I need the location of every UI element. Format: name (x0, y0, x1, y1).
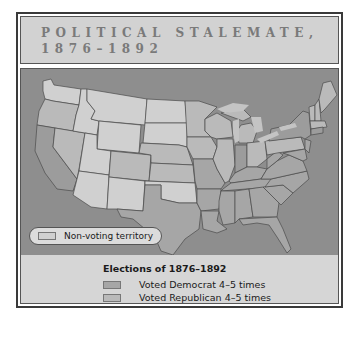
state-arkansas (197, 189, 221, 211)
non-voting-swatch (38, 232, 56, 240)
state-wyoming (97, 121, 141, 153)
legend-item-democrat: Voted Democrat 4–5 times (103, 279, 265, 290)
non-voting-legend: Non-voting territory (29, 227, 162, 245)
legend-label-democrat: Voted Democrat 4–5 times (139, 279, 265, 290)
republican-swatch (103, 294, 121, 302)
state-iowa (187, 137, 217, 159)
state-mississippi (219, 191, 235, 225)
non-voting-label: Non-voting territory (64, 231, 153, 241)
map-panel: Non-voting territory Elections of 1876–1… (20, 68, 339, 304)
legend-item-republican: Voted Republican 4–5 times (103, 292, 271, 303)
state-vermont (309, 105, 315, 121)
state-new-mexico (107, 177, 145, 211)
state-kansas (149, 163, 195, 183)
legend-label-republican: Voted Republican 4–5 times (139, 292, 271, 303)
title-panel: POLITICAL STALEMATE, 1876–1892 (20, 16, 339, 64)
title-line-2: 1876–1892 (41, 42, 163, 56)
state-north-dakota (145, 99, 187, 123)
state-colorado (109, 151, 151, 181)
democrat-swatch (103, 281, 121, 289)
legend-panel: Elections of 1876–1892 Voted Democrat 4–… (21, 255, 338, 303)
legend-title: Elections of 1876–1892 (103, 263, 226, 274)
map-figure: POLITICAL STALEMATE, 1876–1892 (16, 12, 343, 308)
title-line-1: POLITICAL STALEMATE, (41, 26, 319, 40)
